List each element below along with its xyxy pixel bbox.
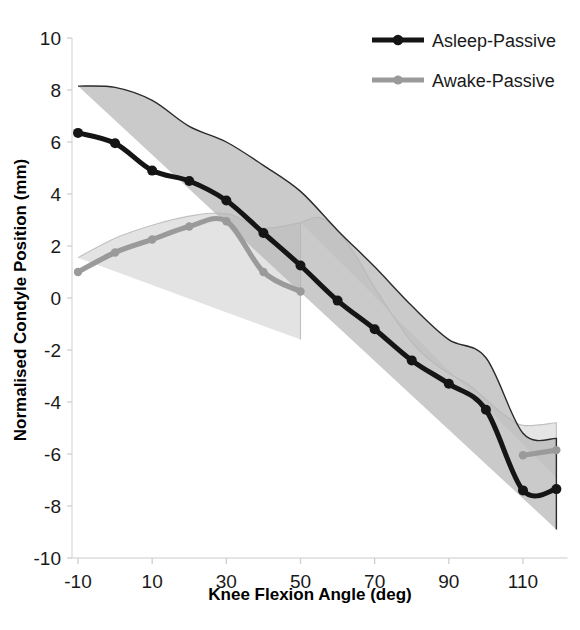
y-tick-label: 4	[50, 184, 61, 205]
asleep-passive-marker	[147, 166, 157, 176]
legend-label: Asleep-Passive	[432, 31, 556, 51]
chart-container: -10-8-6-4-20246810-101030507090110 Aslee…	[0, 0, 580, 630]
condyle-position-line-chart: -10-8-6-4-20246810-101030507090110 Aslee…	[0, 0, 580, 630]
asleep-passive-marker	[407, 355, 417, 365]
awake-passive-marker	[552, 446, 560, 454]
legend-marker-swatch	[393, 75, 402, 84]
y-tick-label: 6	[50, 132, 61, 153]
y-tick-label: -8	[44, 496, 61, 517]
x-tick-label: 10	[142, 571, 163, 592]
awake-passive-marker	[296, 287, 304, 295]
asleep-passive-marker	[370, 324, 380, 334]
x-tick-label: -10	[64, 571, 91, 592]
asleep-passive-marker	[110, 138, 120, 148]
x-tick-label: 110	[508, 571, 538, 592]
awake-passive-marker	[185, 222, 193, 230]
y-tick-label: 8	[50, 80, 61, 101]
asleep-passive-marker	[481, 405, 491, 415]
asleep-passive-marker	[73, 128, 83, 138]
y-axis-title: Normalised Condyle Position (mm)	[11, 159, 30, 441]
asleep-passive-marker	[518, 485, 528, 495]
x-tick-label: 90	[438, 571, 459, 592]
awake-passive-marker	[148, 235, 156, 243]
asleep-passive-marker	[221, 196, 231, 206]
legend-label: Awake-Passive	[432, 71, 555, 91]
awake-passive-marker	[74, 268, 82, 276]
asleep-passive-marker	[296, 261, 306, 271]
asleep-passive-marker	[258, 228, 268, 238]
y-tick-label: 10	[40, 28, 61, 49]
asleep-passive-marker	[184, 176, 194, 186]
y-tick-label: -2	[44, 340, 61, 361]
awake-passive-marker	[222, 217, 230, 225]
y-tick-label: 0	[50, 288, 61, 309]
y-tick-label: 2	[50, 236, 61, 257]
asleep-passive-marker	[551, 484, 561, 494]
y-tick-label: -6	[44, 444, 61, 465]
awake-passive-marker	[111, 248, 119, 256]
x-axis-title: Knee Flexion Angle (deg)	[208, 585, 411, 604]
awake-passive-marker	[259, 268, 267, 276]
awake-passive-marker	[519, 451, 527, 459]
asleep-passive-marker	[444, 379, 454, 389]
asleep-passive-marker	[333, 296, 343, 306]
legend-marker-swatch	[393, 35, 403, 45]
y-tick-label: -4	[44, 392, 61, 413]
y-tick-label: -10	[34, 548, 61, 569]
